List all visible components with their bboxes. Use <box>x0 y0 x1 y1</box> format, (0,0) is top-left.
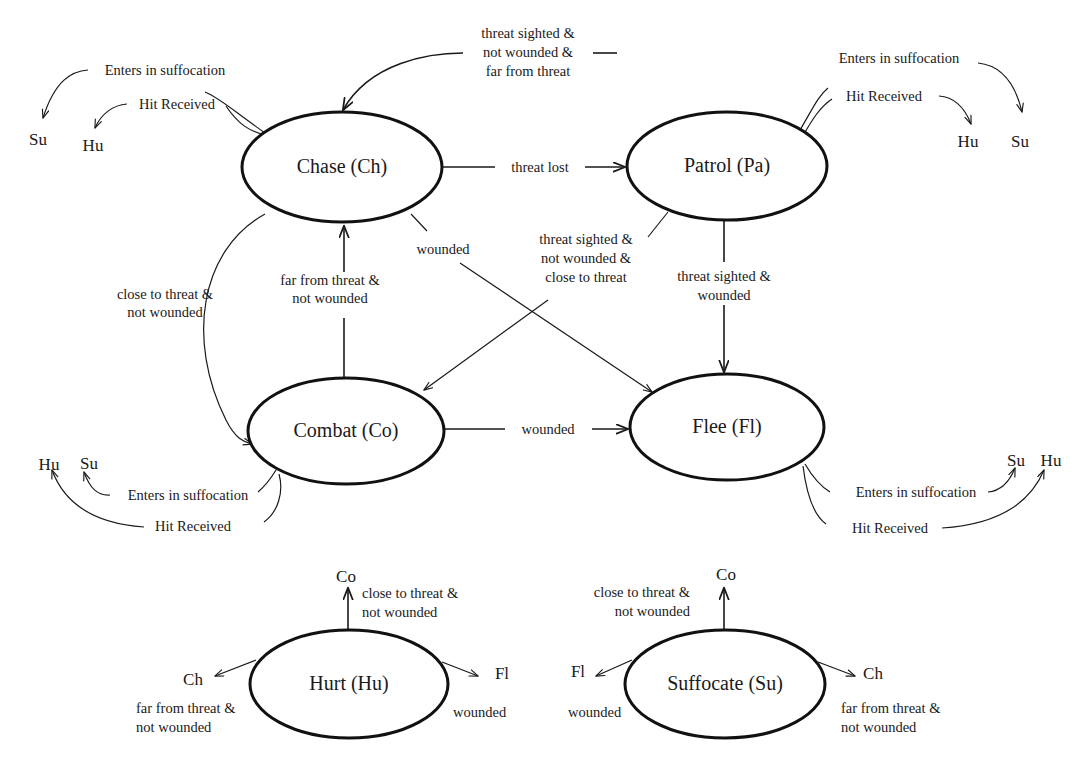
state-label-patrol: Patrol (Pa) <box>684 154 770 177</box>
edge-label-suffocate-chase-2: not wounded <box>841 719 917 735</box>
edge-label-hurt-combat-1: close to threat & <box>362 585 459 601</box>
edge-label-far-nw-up-1: far from threat & <box>280 272 380 288</box>
edge-patrol-su-tail <box>800 88 828 130</box>
edge-combat-hu-tail <box>264 474 281 522</box>
edge-chase-flee-stub <box>411 214 427 231</box>
edge-label-chase-suffocation: Enters in suffocation <box>105 62 226 78</box>
stub-suffocate-co: Co <box>716 565 736 584</box>
stub-suffocate-fl: Fl <box>571 662 585 681</box>
edge-label-hurt-combat-2: not wounded <box>362 604 438 620</box>
state-label-suffocate: Suffocate (Su) <box>667 672 783 695</box>
edge-label-patrol-hit: Hit Received <box>846 88 923 104</box>
edge-label-ts-nw-close-3: close to threat <box>545 269 626 285</box>
edge-label-suffocate-flee: wounded <box>568 704 622 720</box>
edge-label-far-nw-up-2: not wounded <box>292 290 368 306</box>
edge-label-hurt-chase-1: far from threat & <box>136 700 236 716</box>
stub-suffocate-ch: Ch <box>863 664 883 683</box>
edge-label-close-nw-left-1: close to threat & <box>117 286 214 302</box>
edge-label-ts-nw-far-2: not wounded & <box>483 44 574 60</box>
edge-hurt-chase <box>215 660 256 676</box>
edge-label-ts-wounded-2: wounded <box>697 287 751 303</box>
stub-hurt-ch: Ch <box>183 670 203 689</box>
stub-flee-su: Su <box>1007 451 1025 470</box>
edge-label-chase-hit: Hit Received <box>139 96 216 112</box>
edge-patrol-su <box>978 63 1022 112</box>
edge-patrol-hu <box>939 96 971 124</box>
stub-patrol-hu: Hu <box>958 132 979 151</box>
edge-chase-hu <box>95 104 127 128</box>
edge-label-hurt-chase-2: not wounded <box>136 719 212 735</box>
stub-chase-su: Su <box>29 130 47 149</box>
edge-label-close-nw-left-2: not wounded <box>127 304 203 320</box>
edge-combat-su-tail <box>258 470 276 492</box>
edge-flee-hu-tail <box>803 466 826 524</box>
edge-label-suffocate-chase-1: far from threat & <box>841 700 941 716</box>
stub-chase-hu: Hu <box>83 136 104 155</box>
edge-flee-su-tail <box>805 464 830 492</box>
edge-label-wounded-diagonal: wounded <box>416 241 470 257</box>
edge-label-ts-nw-close-1: threat sighted & <box>539 231 633 247</box>
state-label-hurt: Hurt (Hu) <box>309 672 388 695</box>
edge-label-ts-nw-far-3: far from threat <box>486 63 571 79</box>
edge-label-wounded-combat-flee: wounded <box>521 421 575 437</box>
edge-label-patrol-suffocation: Enters in suffocation <box>839 50 960 66</box>
fsm-canvas: Chase (Ch) Patrol (Pa) Combat (Co) Flee … <box>0 0 1087 782</box>
edge-label-threat-lost: threat lost <box>511 159 569 175</box>
edge-label-hurt-flee: wounded <box>453 704 507 720</box>
stub-patrol-su: Su <box>1011 132 1029 151</box>
edge-label-flee-hit: Hit Received <box>852 520 929 536</box>
edge-label-flee-suffocation: Enters in suffocation <box>856 484 977 500</box>
edge-patrol-combat-stub <box>648 212 668 237</box>
edge-patrol-chase <box>343 53 463 110</box>
edge-flee-su <box>988 468 1015 492</box>
edge-patrol-combat <box>424 300 548 390</box>
edge-chase-hu-tail <box>226 106 266 135</box>
edge-label-combat-hit: Hit Received <box>155 518 232 534</box>
stub-hurt-co: Co <box>336 567 356 586</box>
stub-combat-hu: Hu <box>39 455 60 474</box>
edge-label-ts-nw-close-2: not wounded & <box>541 250 632 266</box>
edge-label-ts-wounded-1: threat sighted & <box>677 268 771 284</box>
stub-flee-hu: Hu <box>1041 451 1062 470</box>
edge-label-suffocate-combat-2: not wounded <box>615 603 691 619</box>
edge-combat-su <box>84 472 110 495</box>
stub-combat-su: Su <box>80 454 98 473</box>
state-machine-diagram: Chase (Ch) Patrol (Pa) Combat (Co) Flee … <box>0 0 1087 782</box>
state-label-combat: Combat (Co) <box>294 419 399 442</box>
edge-label-combat-suffocation: Enters in suffocation <box>128 487 249 503</box>
state-label-flee: Flee (Fl) <box>692 415 761 438</box>
edge-label-suffocate-combat-1: close to threat & <box>594 584 691 600</box>
edge-chase-su <box>43 70 88 118</box>
state-label-chase: Chase (Ch) <box>297 155 388 178</box>
edge-label-ts-nw-far-1: threat sighted & <box>481 25 575 41</box>
stub-hurt-fl: Fl <box>495 664 509 683</box>
